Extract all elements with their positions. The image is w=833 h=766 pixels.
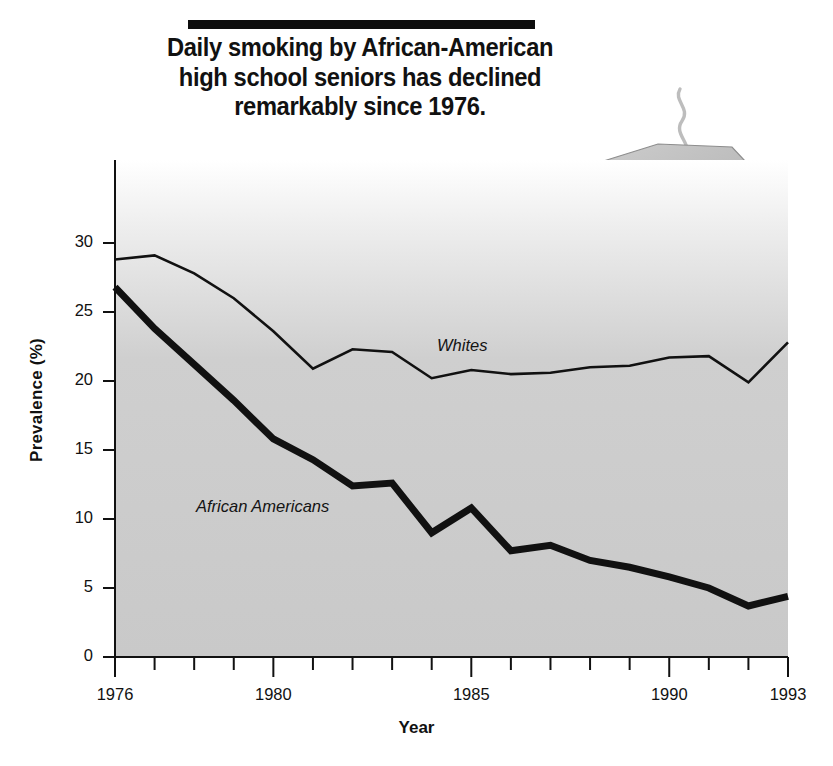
x-tick-label: 1985 xyxy=(436,685,506,704)
chart-page: Daily smoking by African-American high s… xyxy=(0,0,833,766)
x-tick-label: 1976 xyxy=(80,685,150,704)
series-line-african-americans xyxy=(115,287,788,606)
series-label-whites: Whites xyxy=(437,336,487,355)
series-line-whites xyxy=(115,255,788,382)
y-tick-label: 0 xyxy=(53,646,93,665)
x-axis-title: Year xyxy=(0,718,833,738)
x-tick-label: 1990 xyxy=(634,685,704,704)
x-tick-label: 1993 xyxy=(753,685,823,704)
y-tick-label: 30 xyxy=(53,232,93,251)
x-tick-label: 1980 xyxy=(238,685,308,704)
y-tick-label: 25 xyxy=(53,301,93,320)
y-tick-label: 10 xyxy=(53,508,93,527)
series-label-african-americans: African Americans xyxy=(196,497,329,516)
chart-area: Prevalence (%) Year Whites African Ameri… xyxy=(0,0,833,766)
y-tick-label: 5 xyxy=(53,577,93,596)
y-axis-title: Prevalence (%) xyxy=(27,300,47,500)
y-tick-label: 15 xyxy=(53,439,93,458)
chart-svg xyxy=(0,0,833,766)
y-tick-label: 20 xyxy=(53,370,93,389)
